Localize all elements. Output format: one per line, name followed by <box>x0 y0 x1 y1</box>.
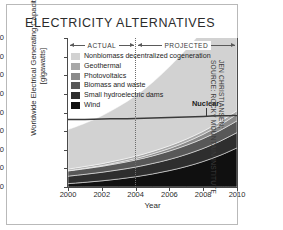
y-tick-label: 700 <box>0 52 4 61</box>
y-tick-label: 500 <box>0 89 4 98</box>
y-axis-title: Worldwide Electrical Generating Capacity… <box>29 0 47 141</box>
nuclear-annotation-leader <box>206 108 207 117</box>
x-tick-mark <box>136 187 137 191</box>
legend-item: Photovoltaics <box>71 72 211 81</box>
legend-label: Biomass and waste <box>84 81 146 90</box>
x-tick-label: 2010 <box>224 190 250 199</box>
legend-label: Wind <box>84 101 100 110</box>
x-tick-label: 2004 <box>123 190 149 199</box>
y-tick-label: 100 <box>0 163 4 172</box>
legend-label: Geothermal <box>84 62 121 71</box>
span-label: PROJECTED <box>162 41 212 50</box>
legend-item: Small hydroelectric dams <box>71 91 211 100</box>
figure-frame: ELECTRICITY ALTERNATIVES Worldwide Elect… <box>6 4 238 225</box>
y-tick-label: 600 <box>0 70 4 79</box>
legend-swatch <box>71 82 80 89</box>
x-tick-label: 2000 <box>55 190 81 199</box>
x-tick-mark <box>68 187 69 191</box>
legend-item: Wind <box>71 101 211 110</box>
y-tick-label: 300 <box>0 126 4 135</box>
span-label: ACTUAL <box>85 41 119 50</box>
page-title: ELECTRICITY ALTERNATIVES <box>25 16 215 30</box>
legend-swatch <box>71 73 80 80</box>
y-tick-label: 0 <box>0 182 4 191</box>
y-tick-label: 800 <box>0 33 4 42</box>
y-tick-label: 400 <box>0 108 4 117</box>
legend-item: Nonbiomass decentralized cogeneration <box>71 52 211 61</box>
x-tick-label: 2006 <box>156 190 182 199</box>
period-span-projected: PROJECTED <box>138 41 235 50</box>
x-tick-mark <box>203 187 204 191</box>
legend-item: Biomass and waste <box>71 81 211 90</box>
x-tick-mark <box>102 187 103 191</box>
period-span-actual: ACTUAL <box>70 41 134 50</box>
credit-line: SOURCE: ROCKY MOUNTAIN INSTITUTE <box>209 60 217 210</box>
legend-swatch <box>71 92 80 99</box>
legend-label: Nonbiomass decentralized cogeneration <box>84 52 211 61</box>
legend-swatch <box>71 63 80 70</box>
legend-label: Photovoltaics <box>84 72 126 81</box>
x-tick-label: 2002 <box>89 190 115 199</box>
legend-label: Small hydroelectric dams <box>84 91 163 100</box>
credit-line: JEN CHRISTIANSEN; <box>217 60 225 210</box>
legend-swatch <box>71 53 80 60</box>
legend-item: Geothermal <box>71 62 211 71</box>
x-tick-mark <box>169 187 170 191</box>
x-tick-mark <box>237 187 238 191</box>
y-tick-label: 200 <box>0 145 4 154</box>
plot-right-border <box>237 38 238 188</box>
source-credit: JEN CHRISTIANSEN;SOURCE: ROCKY MOUNTAIN … <box>209 60 225 210</box>
chart-legend: Nonbiomass decentralized cogenerationGeo… <box>71 52 211 111</box>
legend-swatch <box>71 102 80 109</box>
